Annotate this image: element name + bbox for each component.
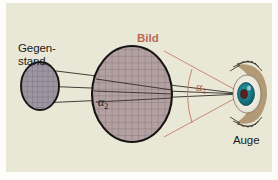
optics-diagram (6, 3, 272, 172)
figure-panel: Gegen-stand Bild Auge α2 α1 (6, 3, 272, 172)
image-label: Bild (137, 32, 159, 44)
object-label: Gegen-stand (18, 42, 56, 67)
human-eye (230, 61, 267, 127)
small-grid-ellipse (21, 62, 59, 110)
alpha2-subscript: 2 (104, 102, 108, 111)
large-grid-ellipse (92, 46, 172, 142)
eye-label: Auge (233, 134, 259, 147)
object-label-line1: Gegen- (18, 42, 56, 54)
figure-root: Gegen-stand Bild Auge α2 α1 (0, 0, 278, 180)
alpha2-label: α2 (98, 95, 108, 111)
alpha1-label: α1 (196, 80, 206, 96)
alpha1-subscript: 1 (202, 87, 206, 96)
object-label-line2: stand (18, 55, 46, 67)
